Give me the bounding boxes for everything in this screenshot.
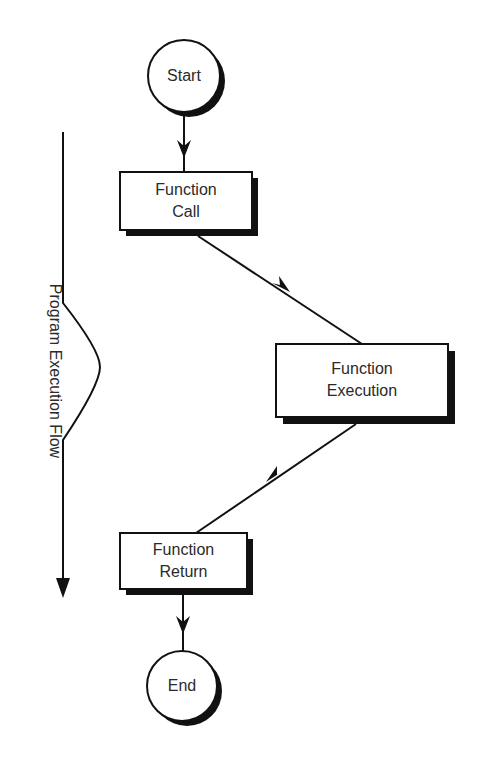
program-execution-flow-label: Program Execution Flow	[46, 271, 64, 471]
return-label-line2: Return	[120, 561, 247, 583]
return-label-line1: Function	[120, 539, 247, 561]
call-label-line1: Function	[120, 179, 252, 201]
return-label: Function Return	[120, 539, 247, 583]
execution-label: Function Execution	[276, 358, 448, 402]
edge-execution-return	[196, 424, 356, 533]
edge-call-execution	[198, 236, 362, 344]
call-label-line2: Call	[120, 201, 252, 223]
execution-label-line1: Function	[276, 358, 448, 380]
end-label: End	[146, 675, 218, 697]
execution-label-line2: Execution	[276, 380, 448, 402]
flow-arrowhead-icon	[56, 578, 70, 598]
call-label: Function Call	[120, 179, 252, 223]
start-label: Start	[146, 65, 222, 87]
